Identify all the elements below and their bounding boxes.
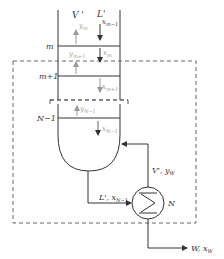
label-product: W, xW [191,244,213,254]
plate-label-n1: N−1 [36,114,56,123]
vapor-return-line [122,144,148,187]
label-y-m: ym [78,22,88,31]
label-x-m: xm [103,49,112,58]
label-y-m1: ym+1 [68,50,85,59]
label-y-n1: yN−1 [79,105,96,114]
label-liquid-reboiler: L', xN−1 [98,193,128,203]
break-gap [52,101,126,104]
label-x-m-1: xm−1 [102,18,118,27]
diagram-canvas: V ' L' m m+1 N−1 ym xm−1 ym+1 xm xm+1 yN… [0,0,224,259]
label-x-n1: xN−1 [102,125,118,134]
plate-label-m1: m+1 [39,72,58,81]
label-vapor-top: V ' [72,10,84,20]
reboiler [132,187,164,219]
label-x-m1: xm+1 [102,83,118,92]
label-reboiler-n: N [167,199,176,208]
label-vapor-reboiler: V', yW [152,166,176,176]
plate-label-m: m [46,42,54,51]
